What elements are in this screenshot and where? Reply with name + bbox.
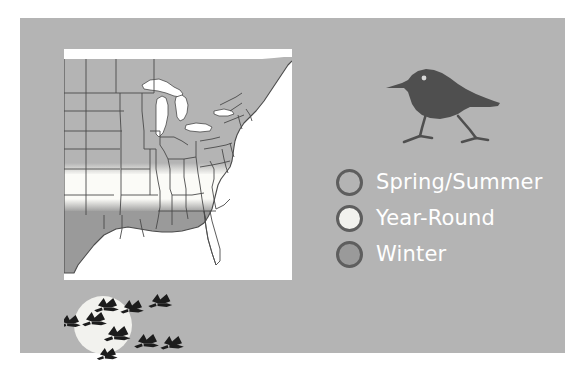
- legend-item-winter[interactable]: Winter: [334, 236, 566, 272]
- figure-panel: Spring/Summer Year-Round Winter: [20, 18, 565, 353]
- legend-label-year-round: Year-Round: [376, 208, 495, 229]
- goose: [160, 336, 183, 350]
- range-map-svg: [64, 49, 292, 280]
- legend-item-spring-summer[interactable]: Spring/Summer: [334, 164, 566, 200]
- goose: [148, 294, 172, 308]
- geese-over-moon: [64, 290, 194, 368]
- migration-map-figure: Spring/Summer Year-Round Winter: [0, 0, 587, 370]
- range-map: [64, 49, 292, 280]
- range-legend: Spring/Summer Year-Round Winter: [334, 164, 566, 272]
- year-round-swatch: [336, 205, 363, 232]
- winter-swatch: [336, 241, 363, 268]
- bird-legs: [404, 114, 488, 142]
- sandpiper-svg: [372, 58, 504, 148]
- geese-svg: [64, 290, 194, 368]
- spring-summer-swatch: [336, 169, 363, 196]
- bird-eye: [422, 76, 427, 81]
- legend-label-winter: Winter: [376, 244, 446, 265]
- legend-item-year-round[interactable]: Year-Round: [334, 200, 566, 236]
- legend-label-spring-summer: Spring/Summer: [376, 172, 543, 193]
- bird-body: [386, 69, 500, 119]
- goose: [134, 334, 159, 348]
- sandpiper-silhouette: [372, 58, 504, 148]
